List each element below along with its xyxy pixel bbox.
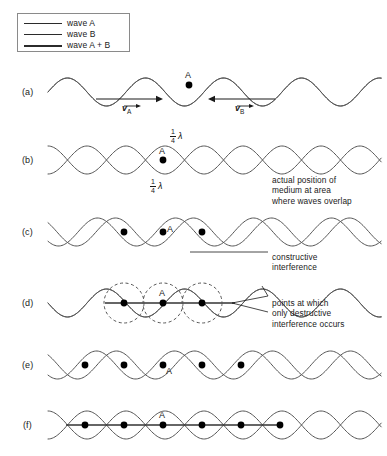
- particle-dot: [82, 362, 89, 369]
- velocity-label-a: vA: [122, 103, 131, 115]
- callout-leader-line: [232, 303, 268, 312]
- particle-dot: [121, 362, 128, 369]
- particle-dot: [160, 229, 167, 236]
- wave-row-f: [48, 411, 381, 439]
- wave-row-c: [48, 218, 381, 246]
- velocity-subscript: B: [240, 108, 244, 115]
- legend-item-wave-a: wave A: [24, 18, 95, 29]
- row-label-e: (e): [22, 360, 33, 370]
- particle-dot: [199, 300, 206, 307]
- particle-dot: [121, 300, 128, 307]
- diagram-canvas: [0, 0, 387, 456]
- particle-dot: [121, 422, 128, 429]
- particle-dot: [238, 362, 245, 369]
- particle-dot: [121, 229, 128, 236]
- particle-dot: [186, 82, 193, 89]
- fraction-denominator: 4: [150, 187, 156, 194]
- legend-item-wave-a-plus-b: wave A + B: [24, 40, 110, 51]
- arrowhead-icon: [249, 104, 254, 108]
- arrowhead-icon: [208, 96, 215, 102]
- particle-dot: [160, 300, 167, 307]
- callout-actual-position: actual position of medium at area where …: [272, 175, 352, 206]
- wave-interference-figure: wave A wave B wave A + B (a) (b) (c) (d)…: [0, 0, 387, 456]
- line-swatch-icon: [24, 34, 62, 35]
- legend: wave A wave B wave A + B: [17, 13, 130, 52]
- particle-dot: [199, 229, 206, 236]
- row-label-d: (d): [22, 298, 33, 308]
- point-label-a-row-a: A: [185, 70, 191, 80]
- lambda-symbol: λ: [178, 131, 182, 141]
- row-label-f: (f): [23, 420, 32, 430]
- point-label-a-row-b: A: [159, 146, 165, 156]
- fraction-denominator: 4: [170, 137, 176, 144]
- quarter-lambda-label-bottom: 1 4 λ: [150, 178, 162, 194]
- arrowhead-icon: [136, 104, 141, 108]
- line-swatch-icon: [24, 23, 62, 24]
- callout-leader-line: [232, 296, 268, 303]
- wave-row-e: [48, 351, 381, 379]
- arrowhead-icon: [156, 96, 163, 102]
- lambda-symbol: λ: [158, 181, 162, 191]
- legend-label: wave B: [67, 30, 95, 39]
- thick-line-swatch-icon: [24, 45, 62, 47]
- particle-dot: [238, 422, 245, 429]
- quarter-lambda-label-top: 1 4 λ: [170, 128, 182, 144]
- particle-dot: [199, 362, 206, 369]
- particle-dot: [199, 422, 206, 429]
- point-label-a-row-e: A: [166, 366, 172, 376]
- point-label-a-row-f: A: [159, 410, 165, 420]
- wave-row-b: [48, 146, 381, 174]
- velocity-label-b: vB: [235, 103, 244, 115]
- wave-curve-b: [48, 218, 381, 246]
- particle-dot: [160, 422, 167, 429]
- fraction-numerator: 1: [150, 178, 156, 185]
- row-label-c: (c): [22, 227, 33, 237]
- point-label-a-row-d: A: [159, 288, 165, 298]
- point-label-a-row-c: A: [167, 224, 173, 234]
- row-label-b: (b): [22, 155, 33, 165]
- callout-destructive-interference: points at which only destructive interfe…: [272, 298, 344, 329]
- wave-curve-a: [48, 218, 381, 246]
- callout-leader-line: [262, 286, 268, 296]
- callout-constructive-interference: constructive interference: [272, 252, 317, 273]
- fraction-numerator: 1: [170, 128, 176, 135]
- fraction: 1 4: [150, 178, 156, 194]
- particle-dot: [277, 422, 284, 429]
- particle-dot: [160, 157, 167, 164]
- particle-dot: [82, 422, 89, 429]
- legend-item-wave-b: wave B: [24, 29, 95, 40]
- fraction: 1 4: [170, 128, 176, 144]
- legend-label: wave A: [67, 19, 95, 28]
- velocity-subscript: A: [127, 108, 131, 115]
- row-label-a: (a): [22, 87, 33, 97]
- wave-curve-a: [48, 351, 381, 379]
- legend-label: wave A + B: [67, 41, 110, 50]
